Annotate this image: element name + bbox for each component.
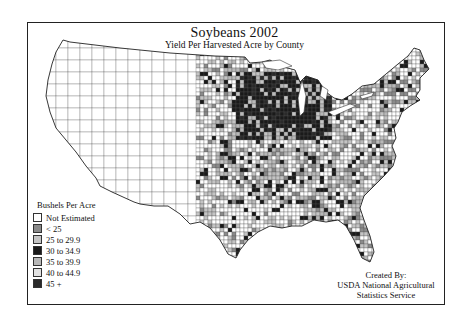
legend-item-under-25: < 25 xyxy=(33,223,96,234)
credit-text: Created By: USDA National Agricultural S… xyxy=(300,270,469,300)
legend-swatch xyxy=(33,224,42,233)
legend-item-30-34: 30 to 34.9 xyxy=(33,245,96,256)
legend-item-45-plus: 45 + xyxy=(33,278,96,289)
legend-swatch xyxy=(33,235,42,244)
legend-item-25-29: 25 to 29.9 xyxy=(33,234,96,245)
map-subtitle: Yield Per Harvested Acre by County xyxy=(0,40,469,50)
legend-swatch xyxy=(33,246,42,255)
legend-item-40-44: 40 to 44.9 xyxy=(33,267,96,278)
legend-item-35-39: 35 to 39.9 xyxy=(33,256,96,267)
legend-title: Bushels Per Acre xyxy=(37,200,96,211)
legend-swatch xyxy=(33,279,42,288)
legend-swatch xyxy=(33,213,42,222)
legend-item-not-estimated: Not Estimated xyxy=(33,212,96,223)
legend-swatch xyxy=(33,257,42,266)
legend-swatch xyxy=(33,268,42,277)
legend: Bushels Per Acre Not Estimated < 25 25 t… xyxy=(33,200,96,289)
map-title: Soybeans 2002 xyxy=(0,25,469,41)
